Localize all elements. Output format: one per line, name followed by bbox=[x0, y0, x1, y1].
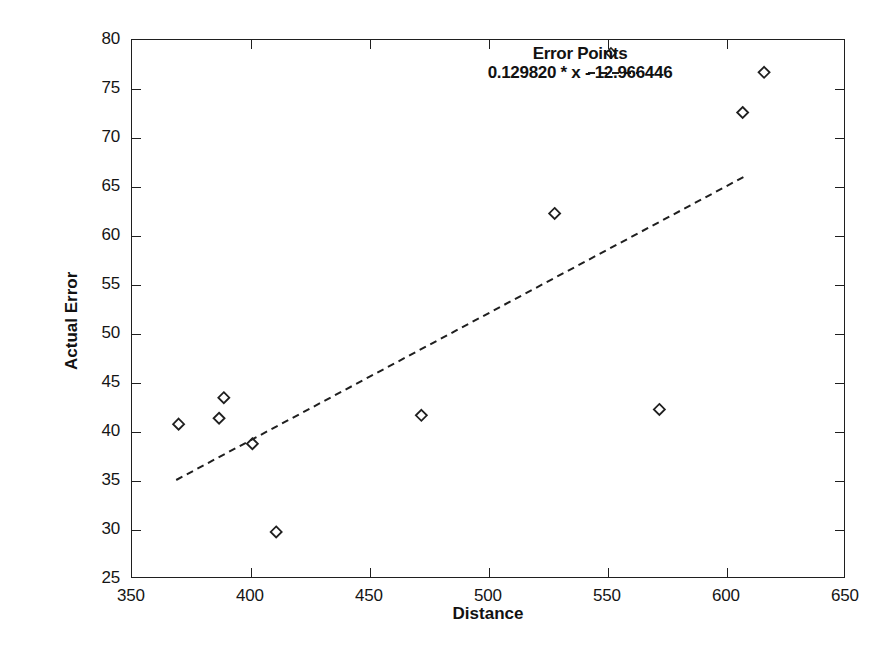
y-tick-mark bbox=[835, 432, 844, 433]
y-tick-mark bbox=[132, 530, 141, 531]
y-tick-mark bbox=[132, 432, 141, 433]
y-tick-label: 60 bbox=[74, 225, 120, 245]
legend-label-error-points: Error Points bbox=[430, 44, 730, 64]
x-tick-mark bbox=[370, 568, 371, 577]
y-tick-mark bbox=[835, 383, 844, 384]
y-tick-mark bbox=[132, 236, 141, 237]
y-tick-mark bbox=[132, 481, 141, 482]
y-tick-label: 25 bbox=[74, 568, 120, 588]
y-tick-mark bbox=[835, 187, 844, 188]
y-tick-mark bbox=[132, 138, 141, 139]
x-tick-mark bbox=[608, 568, 609, 577]
y-tick-mark bbox=[835, 138, 844, 139]
y-tick-mark bbox=[132, 285, 141, 286]
x-tick-label: 350 bbox=[96, 586, 166, 606]
y-tick-mark bbox=[835, 481, 844, 482]
x-tick-label: 650 bbox=[810, 586, 880, 606]
x-tick-label: 400 bbox=[215, 586, 285, 606]
x-tick-mark bbox=[489, 568, 490, 577]
plot-area-frame bbox=[131, 39, 845, 578]
y-tick-mark bbox=[835, 285, 844, 286]
y-tick-label: 35 bbox=[74, 470, 120, 490]
y-tick-mark bbox=[835, 89, 844, 90]
x-tick-label: 450 bbox=[334, 586, 404, 606]
legend-label-fit-equation: 0.129820 * x - 12.966446 bbox=[430, 63, 730, 83]
x-tick-mark bbox=[370, 40, 371, 49]
y-axis-title: Actual Error bbox=[62, 272, 82, 370]
y-tick-mark bbox=[132, 187, 141, 188]
y-tick-mark bbox=[835, 530, 844, 531]
x-tick-label: 550 bbox=[572, 586, 642, 606]
y-tick-label: 80 bbox=[74, 29, 120, 49]
y-tick-mark bbox=[132, 383, 141, 384]
x-axis-title: Distance bbox=[388, 604, 588, 624]
y-tick-label: 65 bbox=[74, 176, 120, 196]
x-tick-label: 600 bbox=[691, 586, 761, 606]
y-tick-mark bbox=[132, 334, 141, 335]
y-tick-mark bbox=[835, 236, 844, 237]
x-tick-label: 500 bbox=[453, 586, 523, 606]
x-tick-mark bbox=[251, 568, 252, 577]
y-tick-label: 75 bbox=[74, 78, 120, 98]
y-tick-label: 40 bbox=[74, 421, 120, 441]
y-tick-mark bbox=[835, 334, 844, 335]
y-tick-label: 70 bbox=[74, 127, 120, 147]
x-tick-mark bbox=[727, 568, 728, 577]
scatter-plot-figure: 253035404550556065707580 350400450500550… bbox=[0, 0, 894, 650]
y-tick-mark bbox=[132, 89, 141, 90]
y-tick-label: 30 bbox=[74, 519, 120, 539]
y-tick-label: 45 bbox=[74, 372, 120, 392]
x-tick-mark bbox=[251, 40, 252, 49]
